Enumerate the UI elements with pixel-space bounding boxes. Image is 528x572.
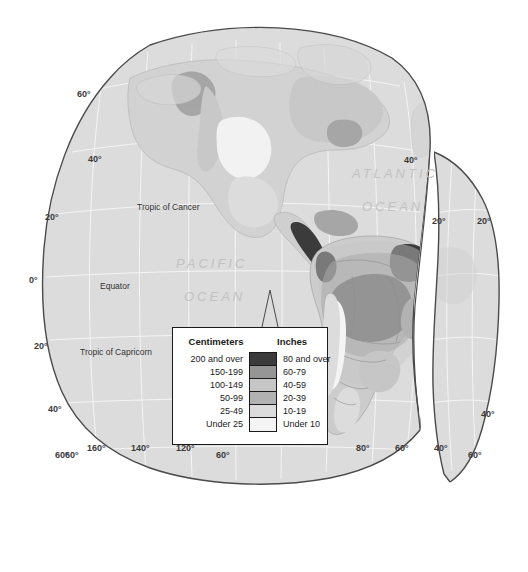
legend-header-centimeters: Centimeters [173,336,259,347]
legend-in-under-10: Under 10 [283,418,320,431]
alaska-siberia [137,75,201,105]
legend-cm-150-199: 150-199 [173,366,243,379]
legend-swatch-100-149 [250,379,276,392]
legend-in-60-79: 60-79 [283,366,306,379]
map-canvas [0,0,528,572]
precipitation-map: PACIFIC OCEAN ATLANTIC OCEAN Tropic of C… [0,0,528,572]
na-southeast-wet [327,119,362,147]
eastern-hemisphere-lobe [430,152,506,482]
legend-header-inches: Inches [277,336,307,347]
legend-in-20-39: 20-39 [283,392,306,405]
legend-in-40-59: 40-59 [283,379,306,392]
legend-in-10-19: 10-19 [283,405,306,418]
legend-cm-25-49: 25-49 [173,405,243,418]
legend-cm-100-149: 100-149 [173,379,243,392]
legend-swatch-under-25 [250,418,276,431]
precipitation-legend: Centimeters Inches 200 and over 150-199 … [172,327,328,445]
legend-cm-200-and-over: 200 and over [173,353,243,366]
legend-swatch-150-199 [250,366,276,379]
legend-swatch-50-99 [250,392,276,405]
east-lobe-fill [433,152,499,482]
legend-swatch-25-49 [250,405,276,418]
legend-cm-50-99: 50-99 [173,392,243,405]
legend-swatch-200-and-over [250,353,276,366]
legend-swatch-column [249,352,277,432]
legend-in-80-and-over: 80 and over [283,353,331,366]
legend-cm-under-25: Under 25 [173,418,243,431]
